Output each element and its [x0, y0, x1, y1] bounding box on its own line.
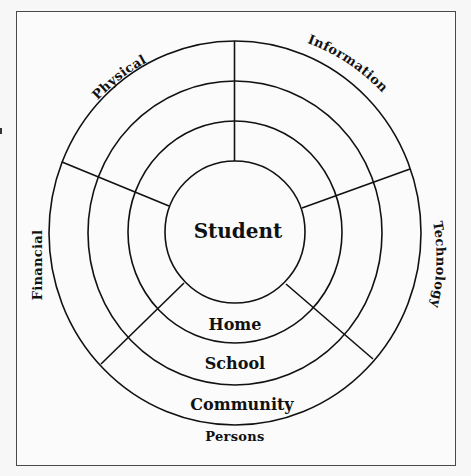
sector-label-persons: Persons	[205, 429, 264, 444]
center-label: Student	[194, 219, 283, 243]
concentric-diagram: Student Home School Community Persons Ph…	[0, 0, 471, 476]
sector-label-information-text: Information	[306, 32, 391, 96]
sector-label-technology: Technology	[428, 220, 449, 309]
sector-label-technology-text: Technology	[428, 220, 449, 309]
spoke-upper-right	[302, 169, 410, 208]
ring-label-home: Home	[209, 315, 262, 334]
ring-label-community: Community	[190, 395, 294, 414]
sector-label-physical: Physical	[89, 52, 149, 103]
spoke-upper-left	[62, 162, 169, 206]
sector-label-financial: Financial	[30, 230, 45, 300]
sector-label-physical-text: Physical	[89, 52, 149, 103]
sector-label-information: Information	[306, 32, 391, 96]
ring-label-school: School	[205, 354, 265, 373]
